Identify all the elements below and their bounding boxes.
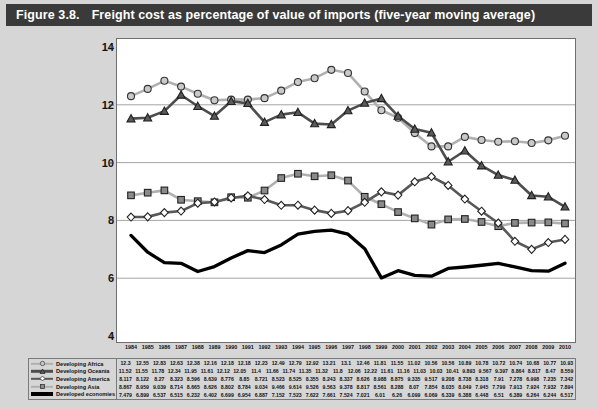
figure-title: Freight cost as percentage of value of i… [80, 8, 536, 22]
table-cell: 8.318 [473, 376, 490, 382]
table-cell: 12.23 [253, 360, 270, 366]
table-cell: 7.278 [507, 376, 524, 382]
table-cell: 12.3 [117, 360, 134, 366]
table-cell: 8.035 [439, 384, 456, 390]
table-cell: 8.665 [185, 384, 202, 390]
table-cell: 7.523 [287, 392, 304, 398]
table-cell: 11.61 [199, 368, 215, 374]
table-cell: 13.21 [321, 360, 338, 366]
table-cell: 13.1 [338, 360, 355, 366]
table-cell: 12.49 [270, 360, 287, 366]
table-cell: 6.099 [405, 392, 422, 398]
y-axis-tick-mark [109, 278, 114, 279]
table-cell: 11.4 [248, 368, 264, 374]
x-axis-tick-label: 1991 [242, 344, 254, 350]
table-cell: 12.12 [215, 368, 231, 374]
table-cell: 10.56 [439, 360, 456, 366]
x-axis-tick-label: 2001 [409, 344, 421, 350]
table-cell: 8.776 [219, 376, 236, 382]
table-cell: 6.448 [473, 392, 490, 398]
table-cell: 6.954 [236, 392, 253, 398]
x-axis-tick-label: 2009 [542, 344, 554, 350]
figure-title-bar: Figure 3.8. Freight cost as percentage o… [6, 4, 592, 26]
table-cell: 8.714 [168, 384, 185, 390]
table-cell: 7.91 [490, 376, 507, 382]
table-cell: 6.887 [253, 392, 270, 398]
table-cell: 10.56 [422, 360, 439, 366]
table-cell: 9.034 [253, 384, 270, 390]
table-cell: 6.998 [524, 376, 541, 382]
x-axis-tick-label: 1999 [375, 344, 387, 350]
table-cell: 7.479 [117, 392, 134, 398]
table-cell: 9.893 [461, 368, 477, 374]
table-cell: 8.288 [389, 384, 406, 390]
table-cell: 8.523 [270, 376, 287, 382]
table-cell: 7.894 [558, 384, 575, 390]
x-axis-tick-label: 2006 [492, 344, 504, 350]
x-axis-tick-label: 2007 [509, 344, 521, 350]
table-cell: 11.78 [150, 368, 166, 374]
legend-marker-icon [38, 382, 47, 391]
x-axis-tick-label: 2002 [425, 344, 437, 350]
table-cell: 12.34 [166, 368, 182, 374]
y-axis-tick-mark [109, 104, 114, 105]
table-cell: 6.26 [389, 392, 406, 398]
table-cell: 12.63 [168, 360, 185, 366]
data-table: Developing AfricaDeveloping OceaniaDevel… [28, 358, 576, 400]
x-axis-tick-label: 1996 [325, 344, 337, 350]
x-axis-tick-label: 1995 [309, 344, 321, 350]
legend-item[interactable]: Developing Asia [31, 383, 116, 391]
x-axis-tick-label: 1998 [359, 344, 371, 350]
table-cell: 6.517 [558, 392, 575, 398]
series-developing-america [127, 173, 569, 254]
table-cell: 9.466 [270, 384, 287, 390]
table-cell: 8.738 [456, 376, 473, 382]
table-cell: 11.55 [389, 360, 406, 366]
table-cell: 8.596 [185, 376, 202, 382]
table-cell: 6.537 [151, 392, 168, 398]
table-cell: 12.92 [304, 360, 321, 366]
table-cell: 12.79 [287, 360, 304, 366]
table-cell: 7.235 [541, 376, 558, 382]
x-axis-tick-label: 1994 [292, 344, 304, 350]
table-cell: 12.18 [236, 360, 253, 366]
table-cell: 7.799 [490, 384, 507, 390]
table-cell: 7.661 [321, 392, 338, 398]
plot-area [116, 38, 576, 343]
x-axis-tick-label: 1987 [175, 344, 187, 350]
table-cell: 8.27 [151, 376, 168, 382]
x-axis-tick-label: 2008 [526, 344, 538, 350]
x-axis-tick-label: 2010 [559, 344, 571, 350]
legend-label: Developing America [53, 376, 110, 382]
table-cell: 8.355 [304, 376, 321, 382]
table-cell: 7.622 [304, 392, 321, 398]
x-axis-tick-label: 1993 [275, 344, 287, 350]
table-cell: 12.38 [185, 360, 202, 366]
table-cell: 8.721 [253, 376, 270, 382]
x-axis-tick-label: 1992 [259, 344, 271, 350]
table-cell: 11.35 [297, 368, 313, 374]
table-cell: 8.85 [236, 376, 253, 382]
table-cell: 6.069 [422, 392, 439, 398]
table-cell: 6.388 [456, 392, 473, 398]
table-cell: 8.561 [372, 384, 389, 390]
x-axis-tick-label: 1989 [208, 344, 220, 350]
table-cell: 6.01 [372, 392, 389, 398]
table-row: 8.1178.1228.278.3238.5968.6398.7768.858.… [117, 375, 575, 383]
legend-label: Developing Oceania [53, 368, 109, 374]
table-cell: 10.03 [428, 368, 444, 374]
table-cell: 9.526 [304, 384, 321, 390]
table-cell: 12.16 [202, 360, 219, 366]
table-cell: 6.699 [219, 392, 236, 398]
table-cell: 11.74 [281, 368, 297, 374]
legend-swatch-square-icon [31, 383, 53, 390]
y-axis-tick-mark [109, 162, 114, 163]
table-cell: 11.02 [405, 360, 422, 366]
legend-item[interactable]: Developed economies [31, 390, 116, 398]
table-cell: 10.78 [473, 360, 490, 366]
table-cell: 9.563 [321, 384, 338, 390]
table-cell: 8.47 [542, 368, 558, 374]
table-cell: 9.208 [439, 376, 456, 382]
x-axis-tick-label: 1984 [125, 344, 137, 350]
table-cell: 10.41 [444, 368, 460, 374]
